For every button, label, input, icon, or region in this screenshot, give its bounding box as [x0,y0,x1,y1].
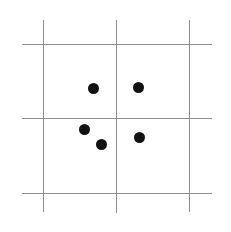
horizontal-line-bottom [22,193,212,194]
figure-canvas [0,0,231,232]
data-point-p1 [88,83,99,94]
vertical-line-middle [116,20,117,213]
vertical-line-right [189,20,190,212]
data-point-p5 [134,132,145,143]
data-point-p3 [79,124,90,135]
horizontal-line-middle [22,118,212,119]
vertical-line-left [43,20,44,212]
data-point-p4 [96,139,107,150]
data-point-p2 [133,82,144,93]
horizontal-line-top [22,44,212,45]
